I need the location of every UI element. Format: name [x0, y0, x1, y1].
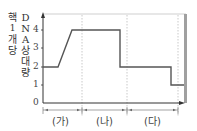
y-tick-2: 2 [33, 61, 39, 71]
dna-content-chart: 핵 1 개 당 D N A 상 대 량 0 1 2 3 4 (가) (나) (다… [0, 0, 197, 131]
segment-label-da: (다) [144, 113, 161, 128]
segment-label-na: (나) [96, 113, 113, 128]
segment-label-ga: (가) [52, 113, 69, 128]
y-axis-arrow-icon [41, 12, 45, 18]
y-tick-0: 0 [33, 97, 39, 107]
y-tick-4: 4 [33, 24, 39, 34]
y-tick-3: 3 [33, 42, 39, 52]
y-label-col2: D N A 상 대 량 [21, 12, 30, 78]
dna-line [43, 30, 184, 85]
y-label-col1: 핵 1 개 당 [8, 12, 17, 56]
frame-right-bar [184, 14, 187, 103]
y-tick-1: 1 [33, 79, 39, 89]
